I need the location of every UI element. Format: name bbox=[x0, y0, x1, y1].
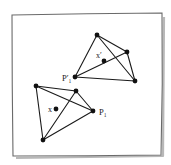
interior-point bbox=[54, 107, 59, 112]
vertex-p1 bbox=[91, 109, 96, 114]
vertex-right bbox=[125, 50, 130, 55]
diagram-canvas: x′P′₁ xP₁ bbox=[0, 0, 171, 165]
vertex-top bbox=[95, 33, 100, 38]
vertex-bottom_right bbox=[133, 79, 138, 84]
interior-point-label: x bbox=[48, 105, 52, 114]
interior-point-label: x′ bbox=[96, 51, 102, 60]
vertex-label-p1: P′₁ bbox=[62, 73, 72, 83]
interior-point bbox=[102, 59, 107, 64]
vertex-p1 bbox=[73, 75, 78, 80]
vertex-top_left bbox=[34, 84, 39, 89]
vertex-label-p1: P₁ bbox=[99, 107, 107, 117]
vertex-bottom bbox=[41, 138, 46, 143]
vertex-top bbox=[74, 89, 79, 94]
